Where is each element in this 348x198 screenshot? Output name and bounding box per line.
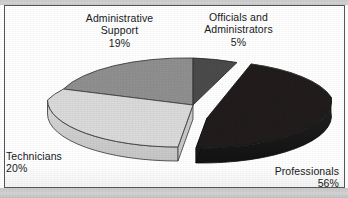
slice-label-officials-and-administrators: Officials and Administrators 5% xyxy=(182,11,295,48)
slice-percent-technicians: 20% xyxy=(6,162,96,174)
slice-percent-administrative-support: 19% xyxy=(63,37,176,49)
slice-label-administrative-support: Administrative Support 19% xyxy=(63,12,176,49)
slice-percent-officials-and-administrators: 5% xyxy=(182,36,295,48)
slice-label-line1: Administrative xyxy=(86,12,153,24)
chart-page: Administrative Support 19% Officials and… xyxy=(0,0,348,198)
slice-percent-professionals: 56% xyxy=(219,177,339,189)
slice-label-line1: Technicians xyxy=(6,150,62,162)
slice-label-professionals: Professionals 56% xyxy=(219,165,339,190)
slice-label-line2: Support xyxy=(101,24,138,36)
slice-label-line1: Officials and xyxy=(209,11,268,23)
slice-label-line2: Administrators xyxy=(204,23,273,35)
slice-label-technicians: Technicians 20% xyxy=(6,150,96,175)
slice-label-line1: Professionals xyxy=(275,165,339,177)
